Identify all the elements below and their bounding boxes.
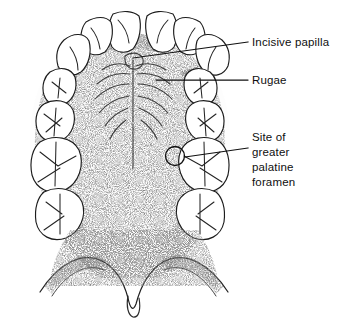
labels: Incisive papilla Rugae Site of greater p… [252, 36, 330, 188]
label-gpf-line-2: greater [252, 146, 290, 158]
label-gpf-line-4: foramen [252, 176, 295, 188]
label-rugae: Rugae [252, 74, 287, 86]
tooth-central-incisor-left [109, 12, 141, 53]
label-incisive-papilla: Incisive papilla [252, 36, 330, 48]
label-greater-palatine-foramen: Site of greater palatine foramen [252, 131, 295, 188]
tooth-first-molar-right [179, 138, 229, 193]
tooth-central-incisor-right [146, 12, 178, 53]
soft-palate [40, 230, 228, 317]
anatomical-figure: Incisive papilla Rugae Site of greater p… [0, 0, 342, 332]
palate-illustration: Incisive papilla Rugae Site of greater p… [0, 0, 342, 332]
label-gpf-line-3: palatine [252, 161, 293, 173]
label-gpf-line-1: Site of [252, 131, 286, 143]
tooth-first-molar-left [31, 138, 81, 193]
